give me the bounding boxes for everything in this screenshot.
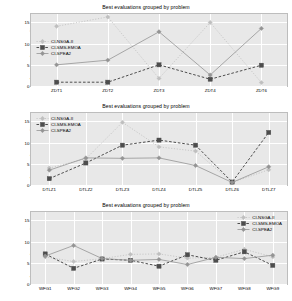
series-marker (267, 130, 271, 134)
series-marker (193, 143, 197, 147)
legend-item: CI-SMS-EMOA (36, 122, 81, 127)
legend-swatch-icon (36, 45, 49, 50)
plot-area-dtlz: 051015DTLZ1DTLZ2DTLZ3DTLZ4DTLZ5DTLZ6DTLZ… (30, 112, 288, 186)
x-axis-tick-label: WFG1 (39, 286, 52, 291)
gridline-horizontal (31, 284, 287, 285)
x-axis-tick-label: ZDT1 (51, 88, 62, 93)
legend-item: CI-NSGA-II (237, 215, 282, 220)
legend-item: CI-SPEA2 (36, 128, 81, 133)
legend-item-label: CI-SPEA2 (51, 51, 71, 56)
chart-title: Best evaluations grouped by problem (2, 4, 290, 10)
legend-swatch-icon (36, 122, 49, 127)
series-marker (157, 145, 161, 149)
series-marker (71, 243, 75, 247)
series-marker (120, 156, 124, 160)
legend-item: CI-SPEA2 (36, 51, 81, 56)
chart-title: Best evaluations grouped by problem (2, 103, 290, 109)
series-marker (84, 161, 88, 165)
x-axis-tick-label: DTLZ1 (43, 187, 56, 192)
series-marker (185, 262, 189, 266)
series-line (57, 28, 262, 75)
series-marker (157, 63, 161, 67)
series-marker (157, 252, 161, 256)
x-axis-tick-label: ZDT6 (256, 88, 267, 93)
x-axis-tick-label: WFG7 (210, 286, 223, 291)
y-axis-tick-label: 0 (27, 183, 29, 188)
x-axis-tick-label: DTLZ7 (262, 187, 275, 192)
series-marker (72, 266, 76, 270)
series-line (49, 158, 268, 183)
series-marker (242, 250, 246, 254)
y-axis-tick-label: 5 (27, 161, 29, 166)
legend-swatch-icon (237, 221, 250, 226)
series-line (57, 17, 262, 83)
x-axis-tick-label: WFG8 (238, 286, 251, 291)
series-marker (259, 63, 263, 67)
x-axis-tick-label: WFG2 (67, 286, 80, 291)
x-axis-tick-label: WFG9 (266, 286, 279, 291)
legend-item: CI-SMS-EMOA (36, 45, 81, 50)
series-marker (208, 77, 212, 81)
legend-item-label: CI-SPEA2 (252, 227, 272, 232)
series-marker (47, 177, 51, 181)
series-marker (157, 156, 161, 160)
legend-swatch-icon (36, 39, 49, 44)
legend-item: CI-NSGA-II (36, 39, 81, 44)
legend-swatch-icon (36, 128, 49, 133)
legend-item-label: CI-SMS-EMOA (252, 221, 282, 226)
plot-area-wfg: 051015WFG1WFG2WFG3WFG4WFG5WFG6WFG7WFG8WF… (30, 211, 288, 285)
x-axis-tick-label: DTLZ5 (189, 187, 202, 192)
series-marker (242, 256, 246, 260)
y-axis-tick-label: 0 (27, 84, 29, 89)
x-axis-tick-label: ZDT3 (154, 88, 165, 93)
legend-item: CI-NSGA-II (36, 116, 81, 121)
series-marker (120, 143, 124, 147)
chart-title: Best evaluations grouped by problem (2, 202, 290, 208)
legend-item-label: CI-NSGA-II (51, 116, 73, 121)
series-marker (54, 63, 58, 67)
chart-legend: CI-NSGA-IICI-SMS-EMOACI-SPEA2 (34, 38, 83, 57)
legend-item-label: CI-SMS-EMOA (51, 45, 81, 50)
series-marker (193, 149, 197, 153)
series-marker (267, 165, 271, 169)
gridline-horizontal (31, 86, 287, 87)
series-marker (271, 263, 275, 267)
series-marker (55, 80, 59, 84)
legend-item-label: CI-NSGA-II (51, 39, 73, 44)
series-marker (157, 257, 161, 261)
y-axis-tick-label: 15 (25, 218, 30, 223)
legend-item-label: CI-NSGA-II (252, 215, 274, 220)
chart-panel-wfg: Best evaluations grouped by problem Aver… (2, 202, 290, 298)
x-axis-tick-label: WFG4 (124, 286, 137, 291)
y-axis-tick-label: 10 (25, 41, 30, 46)
y-axis-tick-label: 10 (25, 239, 30, 244)
x-axis-tick-label: DTLZ2 (79, 187, 92, 192)
plot-area-zdt: 051015ZDT1ZDT2ZDT3ZDT4ZDT6CI-NSGA-IICI-S… (30, 13, 288, 87)
x-axis-tick-label: DTLZ6 (225, 187, 238, 192)
legend-swatch-icon (237, 215, 250, 220)
series-marker (128, 252, 132, 256)
y-axis-tick-label: 15 (25, 119, 30, 124)
legend-item: CI-SMS-EMOA (237, 221, 282, 226)
chart-legend: CI-NSGA-IICI-SMS-EMOACI-SPEA2 (34, 115, 83, 134)
y-axis-tick-label: 5 (27, 260, 29, 265)
gridline-horizontal (31, 185, 287, 186)
x-axis-tick-label: WFG5 (153, 286, 166, 291)
series-marker (157, 264, 161, 268)
series-marker (54, 24, 58, 28)
series-marker (185, 253, 189, 257)
chart-panel-dtlz: Best evaluations grouped by problem Aver… (2, 103, 290, 199)
series-marker (106, 80, 110, 84)
series-marker (193, 163, 197, 167)
legend-item: CI-SPEA2 (237, 227, 282, 232)
x-axis-tick-label: ZDT2 (102, 88, 113, 93)
y-axis-tick-label: 10 (25, 140, 30, 145)
x-axis-tick-label: ZDT4 (205, 88, 216, 93)
series-marker (71, 259, 75, 263)
legend-swatch-icon (237, 227, 250, 232)
x-axis-tick-label: DTLZ3 (116, 187, 129, 192)
multi-panel-line-chart-figure: Best evaluations grouped by problem Aver… (0, 0, 292, 301)
legend-swatch-icon (36, 116, 49, 121)
series-marker (259, 80, 263, 84)
y-axis-tick-label: 5 (27, 62, 29, 67)
